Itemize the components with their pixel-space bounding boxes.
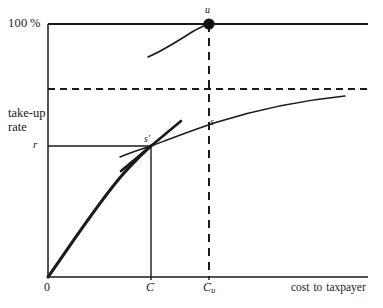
upper-curve-to-u — [148, 24, 209, 57]
economics-figure: 100 % take-up rate r 0 C Cu cost to taxp… — [0, 0, 383, 308]
take-up-curve-thin-upper — [120, 96, 345, 157]
y-axis-label-take-up-rate: take-up rate — [8, 106, 45, 134]
point-s-prime-label: s′ — [144, 133, 150, 144]
point-s-label: s — [210, 116, 214, 127]
point-u-marker — [203, 18, 214, 29]
x-axis-label-Cu-subscript: u — [211, 285, 215, 295]
x-axis-label-origin: 0 — [44, 281, 50, 294]
y-axis-label-100-percent: 100 % — [8, 16, 41, 30]
x-axis-label-Cu-base: C — [203, 280, 211, 294]
y-axis-label-r: r — [33, 138, 37, 150]
take-up-curve-thick — [48, 146, 151, 277]
x-axis-label-Cu: Cu — [203, 281, 215, 296]
x-axis-label-C: C — [146, 281, 154, 294]
x-axis-label-cost-to-taxpayer: cost to taxpayer — [291, 281, 366, 294]
figure-canvas — [0, 0, 383, 308]
point-u-label: u — [205, 4, 210, 15]
